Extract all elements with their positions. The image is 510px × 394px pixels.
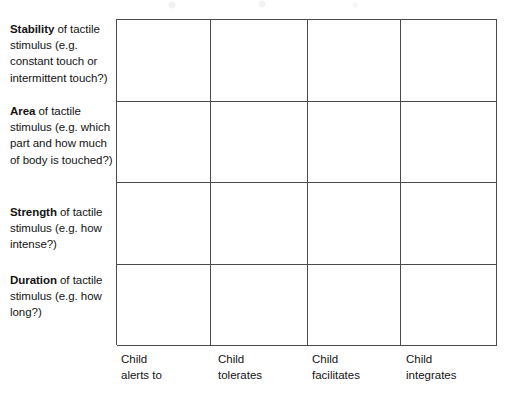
column-header-child-integrates: Child integrates [401,350,497,390]
scan-artifact [0,0,510,10]
grid-cell[interactable] [211,265,308,345]
grid-cell[interactable] [308,265,402,345]
column-header-child-facilitates: Child facilitates [307,350,401,390]
grid-cell[interactable] [401,265,497,345]
row-label-keyword: Strength [10,206,57,218]
grid-cell[interactable] [117,102,211,182]
table-row [117,20,497,102]
column-header-row: Child alerts to Child tolerates Child fa… [116,350,497,390]
column-header-line1: Child [406,352,497,368]
table-row [117,265,497,346]
grid-cell[interactable] [308,183,402,264]
table-row [117,183,497,265]
column-header-line2: tolerates [218,368,307,384]
grid-cell[interactable] [401,20,497,101]
row-label-strength: Strength of tactile stimulus (e.g. how i… [10,204,116,253]
grid-cell[interactable] [117,183,211,264]
grid-cell[interactable] [211,102,308,182]
column-header-line1: Child [312,352,401,368]
response-grid [116,19,497,345]
column-header-line2: facilitates [312,368,401,384]
table-row [117,102,497,183]
row-label-column: Stability of tactile stimulus (e.g. cons… [10,19,116,345]
grid-cell[interactable] [401,102,497,182]
column-header-line2: integrates [406,368,497,384]
row-label-area: Area of tactile stimulus (e.g. which par… [10,103,116,168]
row-label-stability: Stability of tactile stimulus (e.g. cons… [10,21,116,86]
row-label-keyword: Duration [10,274,57,286]
column-header-line1: Child [121,352,210,368]
column-header-line1: Child [218,352,307,368]
row-label-keyword: Stability [10,23,54,35]
grid-cell[interactable] [401,183,497,264]
tactile-stimulus-worksheet: Stability of tactile stimulus (e.g. cons… [0,0,510,394]
grid-cell[interactable] [117,20,211,101]
grid-cell[interactable] [308,20,402,101]
grid-cell[interactable] [211,20,308,101]
row-label-keyword: Area [10,105,35,117]
grid-cell[interactable] [211,183,308,264]
column-header-child-alerts-to: Child alerts to [116,350,210,390]
column-header-line2: alerts to [121,368,210,384]
column-header-child-tolerates: Child tolerates [210,350,307,390]
grid-cell[interactable] [308,102,402,182]
grid-cell[interactable] [117,265,211,345]
row-label-duration: Duration of tactile stimulus (e.g. how l… [10,272,116,321]
